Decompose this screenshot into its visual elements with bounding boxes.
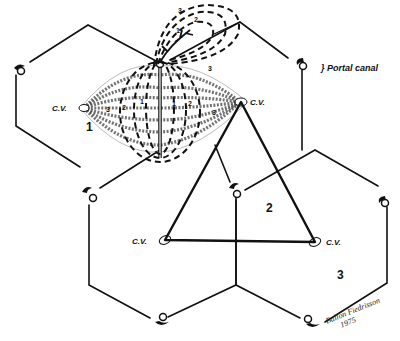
label-acinus-top-1: 1	[176, 27, 180, 34]
terminal-portal-vessel	[157, 30, 194, 158]
label-central-vein-lower-left: C.V.	[132, 237, 147, 246]
label-zone-3: 3	[337, 268, 344, 282]
artist-signature: Ballon Fiedrisson 1975	[324, 296, 384, 334]
portal-triads	[14, 58, 389, 327]
label-central-vein-right: C.V.	[250, 98, 265, 107]
portal-triad-left	[82, 187, 97, 201]
label-zone-2: 2	[266, 201, 273, 215]
label-acinus-right-1: 1	[172, 100, 176, 107]
portal-triad-top-left	[14, 64, 25, 74]
label-acinus-top-2: 2	[194, 16, 198, 23]
label-acinus-left-1: 1	[140, 98, 144, 105]
portal-triad-right	[379, 196, 389, 207]
label-acinus-3-lower: 3	[208, 65, 212, 72]
label-portal-canal: } Portal canal	[320, 63, 379, 73]
label-acinus-left-2: 2	[122, 104, 126, 111]
label-zone-1: 1	[86, 120, 93, 134]
central-vein-left-lobule	[79, 105, 89, 112]
label-central-vein-lower-right: C.V.	[326, 238, 341, 247]
liver-lobule-diagram: } Portal canal C.V. C.V. C.V. C.V. 1 2 3…	[0, 0, 400, 341]
portal-triad-bottom-left	[155, 314, 169, 326]
brace-icon: }	[320, 63, 327, 73]
label-acinus-top-3: 3	[178, 7, 182, 14]
acinus-triangle	[165, 102, 315, 242]
label-acinus-left-3: 3	[106, 106, 110, 113]
label-acinus-right-3: 3	[212, 109, 216, 116]
portal-triad-bottom-right	[305, 316, 321, 328]
label-acinus-right-2: 2	[188, 100, 192, 107]
portal-triad-top-right	[297, 58, 307, 70]
label-central-vein-left: C.V.	[52, 104, 67, 113]
portal-triad-center	[229, 183, 241, 197]
